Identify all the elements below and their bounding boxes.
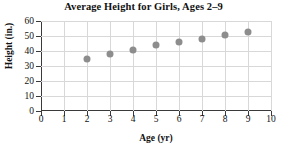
gridline-vertical	[202, 21, 203, 111]
x-axis-tick-label: 9	[246, 114, 251, 124]
data-point	[245, 28, 252, 35]
data-point	[130, 46, 137, 53]
y-axis-tick	[36, 66, 41, 67]
y-axis-tick-label: 0	[29, 106, 34, 116]
gridline-vertical	[156, 21, 157, 111]
plot-area: 0102030405060 012345678910	[41, 21, 271, 111]
chart-title: Average Height for Girls, Ages 2–9	[0, 1, 287, 12]
x-axis-tick-label: 10	[266, 114, 276, 124]
y-axis-tick-label: 50	[25, 31, 35, 41]
y-axis-tick-label: 30	[25, 61, 35, 71]
x-axis-label: Age (yr)	[40, 133, 272, 143]
x-axis-tick-label: 2	[85, 114, 90, 124]
data-point	[199, 36, 206, 43]
y-axis-tick-label: 10	[25, 91, 35, 101]
x-axis-tick-label: 6	[177, 114, 182, 124]
gridline-vertical	[271, 21, 272, 111]
y-axis-tick-label: 20	[25, 76, 35, 86]
x-axis-tick-label: 5	[154, 114, 159, 124]
x-axis-tick-label: 1	[62, 114, 67, 124]
y-axis-tick	[36, 81, 41, 82]
y-axis-tick-label: 60	[25, 16, 35, 26]
data-point	[107, 51, 114, 58]
x-axis-tick-label: 7	[200, 114, 205, 124]
y-axis-tick	[36, 36, 41, 37]
y-axis-tick-label: 40	[25, 46, 35, 56]
x-axis-tick-label: 8	[223, 114, 228, 124]
data-point	[153, 42, 160, 49]
data-point	[176, 39, 183, 46]
y-axis-tick	[36, 51, 41, 52]
gridline-vertical	[110, 21, 111, 111]
data-point	[222, 31, 229, 38]
gridline-vertical	[64, 21, 65, 111]
x-axis-tick-label: 0	[39, 114, 44, 124]
x-axis-tick-label: 3	[108, 114, 113, 124]
gridline-vertical	[87, 21, 88, 111]
y-axis-tick	[36, 21, 41, 22]
data-point	[84, 55, 91, 62]
y-axis-label: Height (in.)	[4, 10, 14, 82]
x-axis-tick-label: 4	[131, 114, 136, 124]
gridline-vertical	[179, 21, 180, 111]
chart-figure: Average Height for Girls, Ages 2–9 Heigh…	[0, 0, 287, 151]
y-axis-tick	[36, 96, 41, 97]
gridline-vertical	[133, 21, 134, 111]
